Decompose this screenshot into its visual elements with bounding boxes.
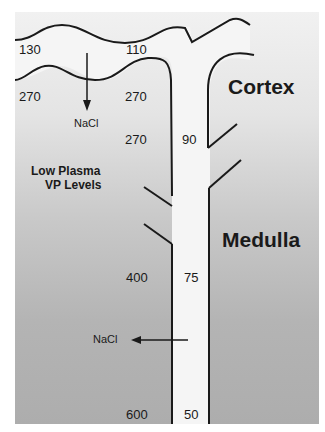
nephron-diagram — [0, 0, 325, 432]
condition-line1: Low Plasma — [31, 164, 100, 178]
value-top-left: 130 — [19, 42, 41, 57]
value-cortex-mid: 270 — [125, 89, 147, 104]
distal-tubule — [15, 18, 250, 424]
branch-left-lower — [144, 224, 172, 244]
nacl-label-cortex: NaCl — [74, 117, 98, 129]
region-cortex: Cortex — [228, 75, 295, 99]
branch-right-upper — [208, 124, 237, 148]
branch-right-lower — [209, 160, 241, 188]
value-top-mid: 110 — [126, 42, 147, 57]
value-cortex-left: 270 — [19, 89, 41, 104]
condition-line2: VP Levels — [45, 178, 101, 192]
arrowhead-left — [131, 336, 141, 344]
value-duct-cortex: 90 — [182, 132, 196, 147]
value-medulla-interstitium: 400 — [126, 270, 148, 285]
value-duct-papilla: 50 — [184, 407, 198, 422]
region-medulla: Medulla — [222, 228, 300, 252]
branch-left-upper — [144, 187, 172, 206]
value-papilla-interstitium: 600 — [126, 407, 148, 422]
arrowhead-down — [83, 100, 91, 111]
value-cortex-lower: 270 — [125, 132, 147, 147]
nacl-label-medulla: NaCl — [93, 333, 117, 345]
value-duct-medulla: 75 — [184, 270, 198, 285]
